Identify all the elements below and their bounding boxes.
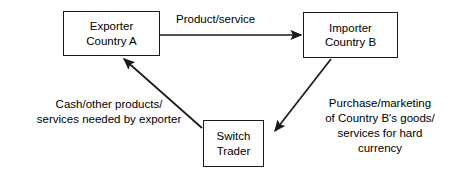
edge-label-purchase-marketing: Purchase/marketing of Country B's goods/… xyxy=(305,96,455,156)
node-switch-trader-line1: Switch xyxy=(217,129,251,143)
node-importer-country-b[interactable]: Importer Country B xyxy=(303,12,398,58)
edge-label-purchase-line4: currency xyxy=(305,141,455,156)
node-importer-line2: Country B xyxy=(325,35,376,49)
node-exporter-line2: Country A xyxy=(86,34,137,48)
edge-label-cash-line1: Cash/other products/ xyxy=(16,97,202,112)
edge-label-product-service-text: Product/service xyxy=(176,13,255,25)
node-switch-trader[interactable]: Switch Trader xyxy=(203,120,264,167)
node-exporter-country-a[interactable]: Exporter Country A xyxy=(63,11,160,56)
edge-label-cash-other-products: Cash/other products/ services needed by … xyxy=(16,97,202,127)
node-exporter-line1: Exporter xyxy=(90,19,133,33)
node-switch-trader-line2: Trader xyxy=(217,144,250,158)
edge-label-cash-line2: services needed by exporter xyxy=(16,112,202,127)
diagram-canvas: Exporter Country A Importer Country B Sw… xyxy=(0,0,457,177)
edge-label-purchase-line1: Purchase/marketing xyxy=(305,96,455,111)
edge-label-product-service: Product/service xyxy=(176,12,255,27)
edge-label-purchase-line3: services for hard xyxy=(305,126,455,141)
node-importer-line1: Importer xyxy=(329,21,372,35)
edge-label-purchase-line2: of Country B's goods/ xyxy=(305,111,455,126)
